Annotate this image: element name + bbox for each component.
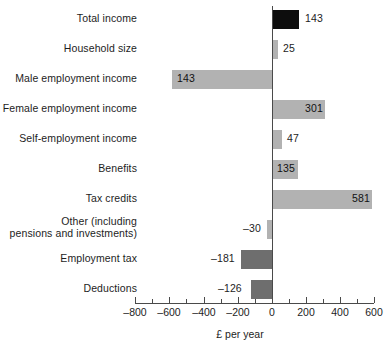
category-label: Male employment income bbox=[0, 72, 137, 84]
bar-household-size bbox=[273, 40, 278, 59]
chart-row: Female employment income 301 bbox=[0, 98, 390, 128]
chart-row: Benefits 135 bbox=[0, 158, 390, 188]
x-axis-tick-minor bbox=[289, 299, 290, 303]
chart-row: Tax credits 581 bbox=[0, 188, 390, 218]
category-label: Household size bbox=[0, 42, 137, 54]
category-label-line2: pensions and investments) bbox=[0, 228, 137, 240]
category-label: Self-employment income bbox=[0, 132, 137, 144]
category-label: Total income bbox=[0, 12, 137, 24]
bar-value-label: 135 bbox=[277, 162, 295, 174]
bar-chart: Total income 143 Household size 25 Male … bbox=[0, 0, 390, 351]
x-axis-tick-minor bbox=[255, 299, 256, 303]
category-label: Tax credits bbox=[0, 192, 137, 204]
chart-row: Total income 143 bbox=[0, 8, 390, 38]
x-axis-tick-minor bbox=[221, 299, 222, 303]
category-label: Benefits bbox=[0, 162, 137, 174]
bar-total-income bbox=[273, 10, 299, 29]
bar-value-label: 143 bbox=[305, 12, 323, 24]
x-axis-tick-label: 600 bbox=[351, 306, 390, 318]
x-axis-tick-minor bbox=[357, 299, 358, 303]
bar-other-pensions-investments bbox=[267, 220, 272, 239]
x-axis-tick-major bbox=[135, 297, 136, 303]
bar-value-label: –30 bbox=[243, 222, 261, 234]
x-axis-tick-minor bbox=[152, 299, 153, 303]
bar-deductions bbox=[251, 280, 272, 299]
x-axis-tick-major bbox=[340, 297, 341, 303]
bar-self-employment-income bbox=[273, 130, 282, 149]
x-axis-tick-major bbox=[169, 297, 170, 303]
bar-value-label: 143 bbox=[177, 72, 195, 84]
x-axis-tick-major bbox=[306, 297, 307, 303]
chart-row: Employment tax –181 bbox=[0, 248, 390, 278]
x-axis-tick-major bbox=[238, 297, 239, 303]
bar-value-label: –181 bbox=[211, 252, 235, 264]
bar-employment-tax bbox=[241, 250, 272, 269]
x-axis-title-text: £ per year bbox=[216, 328, 263, 340]
bar-value-label: 581 bbox=[352, 192, 370, 204]
bar-value-label: 47 bbox=[287, 132, 299, 144]
bar-value-label: –126 bbox=[218, 282, 242, 294]
x-axis-title: £ per year bbox=[0, 328, 390, 340]
bar-value-label: 25 bbox=[283, 42, 295, 54]
chart-row: Household size 25 bbox=[0, 38, 390, 68]
x-axis-tick-major bbox=[374, 297, 375, 303]
x-axis-line bbox=[135, 303, 374, 304]
x-axis-tick-major bbox=[272, 297, 273, 303]
category-label: Employment tax bbox=[0, 252, 137, 264]
category-label: Deductions bbox=[0, 282, 137, 294]
chart-row: Self-employment income 47 bbox=[0, 128, 390, 158]
category-label: Other (including bbox=[0, 216, 137, 228]
bar-value-label: 301 bbox=[305, 102, 323, 114]
chart-row: Other (including pensions and investment… bbox=[0, 218, 390, 248]
chart-row: Male employment income 143 bbox=[0, 68, 390, 98]
x-axis-tick-minor bbox=[186, 299, 187, 303]
x-axis-tick-major bbox=[204, 297, 205, 303]
x-axis-tick-minor bbox=[323, 299, 324, 303]
category-label: Female employment income bbox=[0, 102, 137, 114]
